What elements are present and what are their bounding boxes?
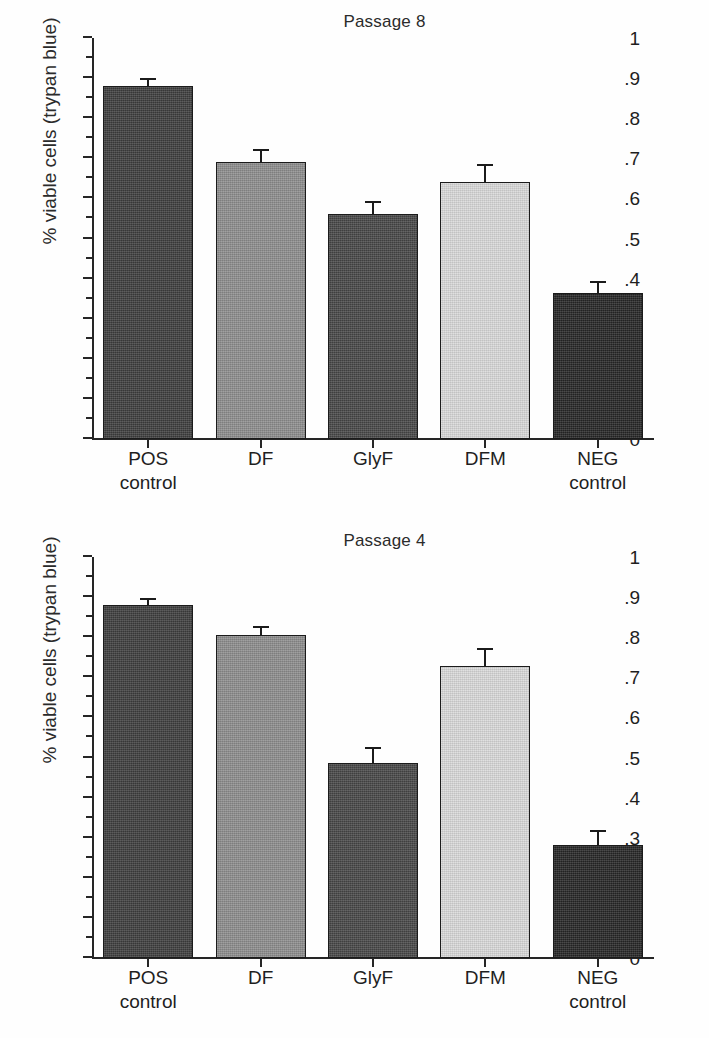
y-tick bbox=[83, 715, 92, 717]
bar bbox=[216, 635, 306, 958]
bar bbox=[103, 86, 193, 439]
y-tick bbox=[83, 635, 92, 637]
bar-group bbox=[440, 38, 530, 439]
x-label-line-2: control bbox=[542, 471, 654, 495]
y-tick bbox=[83, 555, 92, 557]
x-axis-category-label: DF bbox=[204, 447, 316, 471]
bar bbox=[328, 763, 418, 958]
bar bbox=[103, 605, 193, 958]
y-tick bbox=[83, 836, 92, 838]
bar-series bbox=[92, 38, 654, 439]
error-bar bbox=[597, 832, 599, 845]
y-tick bbox=[83, 237, 92, 239]
x-axis-category-label: NEGcontrol bbox=[542, 966, 654, 1014]
chart-title: Passage 4 bbox=[0, 531, 709, 551]
x-axis-labels-bottom: POScontrolDFGlyFDFMNEGcontrol bbox=[92, 966, 654, 1026]
error-bar-cap bbox=[140, 78, 156, 80]
error-bar-cap bbox=[365, 747, 381, 749]
plot-area-top: 0.1.2.3.4.5.6.7.8.91 bbox=[92, 38, 654, 439]
chart-panel-passage-8: Passage 8 % viable cells (trypan blue) 0… bbox=[0, 0, 709, 519]
x-axis-category-label: POScontrol bbox=[92, 447, 204, 495]
x-axis-category-label: GlyF bbox=[317, 447, 429, 471]
y-tick bbox=[83, 916, 92, 918]
error-bar bbox=[372, 749, 374, 763]
error-bar bbox=[147, 600, 149, 605]
y-tick bbox=[83, 876, 92, 878]
error-bar-cap bbox=[140, 598, 156, 600]
x-label-line-1: DF bbox=[248, 967, 273, 988]
bar-series bbox=[92, 557, 654, 958]
x-label-line-1: GlyF bbox=[353, 448, 393, 469]
error-bar bbox=[484, 650, 486, 666]
y-tick bbox=[83, 397, 92, 399]
bar-group bbox=[328, 38, 418, 439]
error-bar bbox=[260, 151, 262, 162]
y-tick bbox=[83, 437, 92, 439]
x-label-line-2: control bbox=[92, 471, 204, 495]
y-axis-label: % viable cells (trypan blue) bbox=[39, 0, 61, 331]
y-tick bbox=[83, 956, 92, 958]
x-axis-category-label: DF bbox=[204, 966, 316, 990]
error-bar bbox=[260, 628, 262, 635]
x-label-line-1: POS bbox=[128, 967, 168, 988]
y-tick bbox=[83, 116, 92, 118]
bar-group bbox=[103, 38, 193, 439]
figure-page: Passage 8 % viable cells (trypan blue) 0… bbox=[0, 0, 709, 1038]
y-tick bbox=[83, 756, 92, 758]
x-axis-category-label: GlyF bbox=[317, 966, 429, 990]
x-label-line-1: GlyF bbox=[353, 967, 393, 988]
error-bar-cap bbox=[590, 830, 606, 832]
bar bbox=[216, 162, 306, 439]
x-axis-category-label: DFM bbox=[429, 447, 541, 471]
x-label-line-1: DF bbox=[248, 448, 273, 469]
y-tick bbox=[83, 317, 92, 319]
error-bar bbox=[597, 283, 599, 293]
bar bbox=[440, 182, 530, 439]
plot-area-bottom: 0.1.2.3.4.5.6.7.8.91 bbox=[92, 557, 654, 958]
error-bar-cap bbox=[365, 201, 381, 203]
y-tick bbox=[83, 36, 92, 38]
x-axis-labels-top: POScontrolDFGlyFDFMNEGcontrol bbox=[92, 447, 654, 507]
error-bar-cap bbox=[477, 164, 493, 166]
error-bar-cap bbox=[253, 626, 269, 628]
error-bar bbox=[147, 80, 149, 86]
error-bar-cap bbox=[477, 648, 493, 650]
error-bar bbox=[484, 166, 486, 182]
bar bbox=[328, 214, 418, 439]
y-tick bbox=[83, 675, 92, 677]
y-tick bbox=[83, 595, 92, 597]
x-label-line-1: NEG bbox=[577, 448, 618, 469]
error-bar-cap bbox=[590, 281, 606, 283]
y-tick bbox=[83, 357, 92, 359]
x-label-line-2: control bbox=[92, 990, 204, 1014]
x-axis-category-label: POScontrol bbox=[92, 966, 204, 1014]
bar-group bbox=[216, 38, 306, 439]
bar bbox=[553, 293, 643, 439]
chart-title: Passage 8 bbox=[0, 12, 709, 32]
bar bbox=[553, 845, 643, 958]
bar-group bbox=[440, 557, 530, 958]
bar-group bbox=[103, 557, 193, 958]
bar-group bbox=[553, 38, 643, 439]
y-axis-label: % viable cells (trypan blue) bbox=[39, 450, 61, 850]
x-label-line-1: DFM bbox=[465, 967, 506, 988]
error-bar bbox=[372, 203, 374, 214]
y-tick bbox=[83, 196, 92, 198]
bar bbox=[440, 666, 530, 958]
chart-panel-passage-4: Passage 4 % viable cells (trypan blue) 0… bbox=[0, 519, 709, 1038]
x-axis-category-label: DFM bbox=[429, 966, 541, 990]
error-bar-cap bbox=[253, 149, 269, 151]
y-tick bbox=[83, 156, 92, 158]
x-axis-category-label: NEGcontrol bbox=[542, 447, 654, 495]
x-label-line-1: DFM bbox=[465, 448, 506, 469]
x-label-line-2: control bbox=[542, 990, 654, 1014]
x-label-line-1: NEG bbox=[577, 967, 618, 988]
bar-group bbox=[328, 557, 418, 958]
bar-group bbox=[553, 557, 643, 958]
bar-group bbox=[216, 557, 306, 958]
y-tick bbox=[83, 796, 92, 798]
y-tick bbox=[83, 277, 92, 279]
y-tick bbox=[83, 76, 92, 78]
x-label-line-1: POS bbox=[128, 448, 168, 469]
